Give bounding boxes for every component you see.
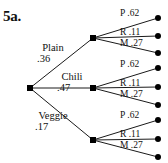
leaf-label-veggie-m: M .27 [120,141,143,151]
leaf-label-plain-m: M .27 [120,39,143,49]
branch-label-plain-prob: .36 [36,54,70,65]
leaf-label-veggie-p: P .62 [120,111,139,121]
leaf-label-veggie-r: R .11 [120,130,140,140]
leaf-node-plain-p [155,15,161,21]
branch-label-veggie-prob: .17 [34,122,72,133]
leaf-label-chili-m: M .27 [120,90,143,100]
branch-label-veggie: Veggie .17 [34,111,72,132]
node-chili [90,85,96,91]
leaf-node-veggie-r [155,136,161,142]
node-root [27,85,33,91]
branch-label-chili-prob: .47 [56,83,88,94]
leaf-label-plain-r: R .11 [120,28,140,38]
leaf-label-chili-r: R .11 [120,79,140,89]
leaf-node-veggie-p [155,117,161,123]
leaf-node-chili-m [155,102,161,108]
leaf-node-plain-r [155,33,161,39]
leaf-label-plain-p: P .62 [120,9,139,19]
probability-tree-diagram: 5a. Plain .36 Chili .47 Veggie .17 P .62… [0,0,168,163]
branch-label-plain: Plain .36 [36,43,70,64]
leaf-node-chili-r [155,84,161,90]
problem-number: 5a. [3,9,21,24]
leaf-label-chili-p: P .62 [120,60,139,70]
leaf-node-chili-p [155,65,161,71]
leaf-node-veggie-m [155,154,161,160]
node-veggie [90,137,96,143]
branch-label-chili: Chili .47 [56,72,88,93]
node-plain [90,35,96,41]
leaf-node-plain-m [155,50,161,56]
